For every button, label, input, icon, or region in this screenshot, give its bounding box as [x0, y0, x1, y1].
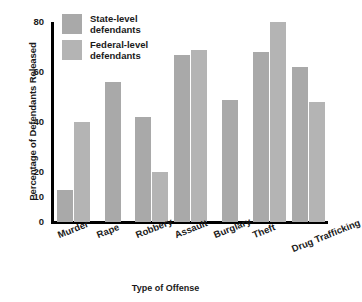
y-axis-tick-20: 20 [18, 167, 44, 177]
bar-theft-state [253, 52, 269, 222]
y-axis-tick-80: 80 [18, 17, 44, 27]
bar-group [211, 22, 250, 222]
bar-murder-federal [74, 122, 90, 222]
bar-theft-federal [270, 22, 286, 222]
bar-robbery-state [135, 117, 151, 222]
bar-rape-state [105, 82, 121, 222]
bar-burglary-state [222, 100, 238, 223]
chart-legend: State-level defendantsFederal-level defe… [62, 13, 202, 65]
legend-item-federal: Federal-level defendants [62, 39, 202, 61]
legend-item-state: State-level defendants [62, 13, 202, 35]
bar-drug-trafficking-federal [309, 102, 325, 222]
y-axis-tick-60: 60 [18, 67, 44, 77]
y-axis-tick-40: 40 [18, 117, 44, 127]
y-axis-tick-0: 0 [18, 217, 44, 227]
y-axis-tick-labels: 01020406080 [18, 0, 44, 302]
x-axis-tick-rape: Rape [95, 221, 121, 240]
bar-assault-state [174, 55, 190, 223]
bar-assault-federal [191, 50, 207, 223]
bar-robbery-federal [152, 172, 168, 222]
legend-swatch-federal-icon [62, 40, 82, 60]
bar-group [250, 22, 289, 222]
x-axis-tick-labels: MurderRapeRobberyAssaultBurglaryTheftDru… [54, 226, 328, 282]
x-axis-title: Type of Offense [0, 283, 331, 293]
legend-label-federal: Federal-level defendants [90, 39, 148, 61]
bar-murder-state [57, 190, 73, 223]
bar-group [289, 22, 328, 222]
x-axis-tick-theft: Theft [251, 221, 277, 240]
legend-swatch-state-icon [62, 14, 82, 34]
legend-label-state: State-level defendants [90, 13, 141, 35]
y-axis-tick-10: 10 [18, 192, 44, 202]
bar-drug-trafficking-state [292, 67, 308, 222]
